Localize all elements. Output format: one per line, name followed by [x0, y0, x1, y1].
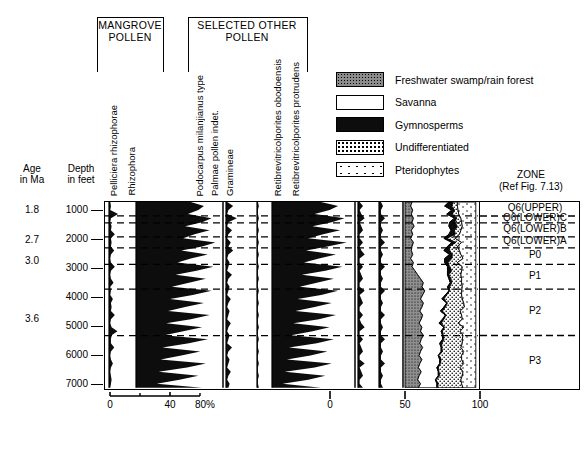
taxon-label-rhizophora: Rhizophora: [126, 147, 137, 196]
legend-swatch-pteridophytes: [336, 162, 384, 177]
taxon-label-obodoensis: Retibrevitricolporites obodoensis: [272, 59, 283, 196]
pollen-curve: [379, 202, 385, 388]
group-label-other-line2: POLLEN: [182, 31, 312, 43]
legend-item-savanna: Savanna: [336, 93, 533, 112]
zone-label: P0: [481, 249, 586, 260]
depth-tick-label: 1000: [52, 204, 88, 215]
legend-label-savanna: Savanna: [395, 96, 436, 108]
legend-label-undifferentiated: Undifferentiated: [395, 141, 469, 153]
pollen-curve: [226, 202, 237, 388]
zone-label: Q6(LOWER)B: [481, 223, 586, 234]
legend: Freshwater swamp/rain forest Savanna Gym…: [336, 70, 533, 183]
pollen-curve: [136, 202, 215, 388]
legend-item-gymnosperms: Gymnosperms: [336, 115, 533, 134]
legend-label-freshwater: Freshwater swamp/rain forest: [395, 74, 533, 86]
depth-tick-label: 4000: [52, 291, 88, 302]
group-label-other-line1: SELECTED OTHER: [182, 19, 312, 31]
depth-axis-header-line1: Depth: [59, 163, 103, 174]
legend-label-gymnosperms: Gymnosperms: [395, 119, 463, 131]
pollen-scale-tick-40: 40: [155, 399, 185, 410]
pollen-diagram-svg: [105, 202, 478, 388]
taxon-label-pelliciera-rhizophorae: Pelliciera rhizophorae: [108, 105, 119, 196]
legend-item-freshwater: Freshwater swamp/rain forest: [336, 70, 533, 89]
age-label: 3.6: [12, 313, 52, 324]
zone-label: Q6(LOWER)A: [481, 235, 586, 246]
depth-tick-label: 6000: [52, 349, 88, 360]
zone-label: P1: [481, 270, 586, 281]
pollen-scale-tick-80: 80%: [185, 399, 225, 410]
zone-label: P3: [481, 355, 586, 366]
legend-swatch-savanna: [336, 95, 384, 110]
taxon-label-protrudens: Retibrevitricolporites protrudens: [290, 62, 301, 196]
pollen-curve: [358, 202, 365, 388]
legend-item-undifferentiated: Undifferentiated: [336, 138, 533, 157]
percent-scale-tick-50: 50: [390, 399, 420, 410]
percent-scale-tick-100: 100: [465, 399, 495, 410]
zone-label: P2: [481, 305, 586, 316]
taxon-label-podocarpus: Podocarpus milanjianus type: [194, 75, 205, 196]
age-label: 1.8: [12, 204, 52, 215]
taxon-label-palmae: Palmae pollen indet.: [209, 110, 220, 196]
depth-tick-label: 7000: [52, 378, 88, 389]
group-label-mangrove: MANGROVE POLLEN: [80, 19, 180, 43]
depth-tick-mark: [91, 239, 103, 240]
depth-tick-mark: [91, 326, 103, 327]
depth-tick-mark: [91, 268, 103, 269]
legend-swatch-freshwater: [336, 72, 384, 87]
zone-header-line2: (Ref Fig. 7.13): [476, 181, 586, 193]
depth-tick-mark: [91, 384, 103, 385]
legend-swatch-undifferentiated: [336, 140, 384, 155]
age-axis-header-line2: in Ma: [9, 174, 55, 185]
depth-tick-mark: [91, 355, 103, 356]
age-label: 3.0: [12, 255, 52, 266]
depth-tick-label: 5000: [52, 320, 88, 331]
age-axis-header: Age in Ma: [9, 163, 55, 185]
taxon-label-gramineae: Gramineae: [224, 149, 235, 196]
depth-tick-mark: [91, 210, 103, 211]
zone-label: Q6(LOWER)C: [481, 212, 586, 223]
percent-scale-tick-0: 0: [315, 399, 345, 410]
group-label-mangrove-line1: MANGROVE: [80, 19, 180, 31]
legend-swatch-gymnosperms: [336, 117, 384, 132]
depth-tick-label: 2000: [52, 233, 88, 244]
depth-axis-header: Depth in feet: [59, 163, 103, 185]
pollen-curve: [109, 202, 118, 388]
legend-label-pteridophytes: Pteridophytes: [395, 164, 459, 176]
depth-axis-header-line2: in feet: [59, 174, 103, 185]
group-label-other: SELECTED OTHER POLLEN: [182, 19, 312, 43]
age-axis-header-line1: Age: [9, 163, 55, 174]
group-label-mangrove-line2: POLLEN: [80, 31, 180, 43]
pollen-diagram-plot: [104, 201, 480, 390]
depth-tick-label: 3000: [52, 262, 88, 273]
pollen-scale-tick-0: 0: [95, 399, 125, 410]
age-label: 2.7: [12, 234, 52, 245]
pollen-curve: [272, 202, 347, 388]
zone-header-line1: ZONE: [476, 169, 586, 181]
zone-label: Q6(UPPER): [481, 202, 586, 213]
depth-tick-mark: [91, 297, 103, 298]
zone-column-header: ZONE (Ref Fig. 7.13): [476, 169, 586, 192]
